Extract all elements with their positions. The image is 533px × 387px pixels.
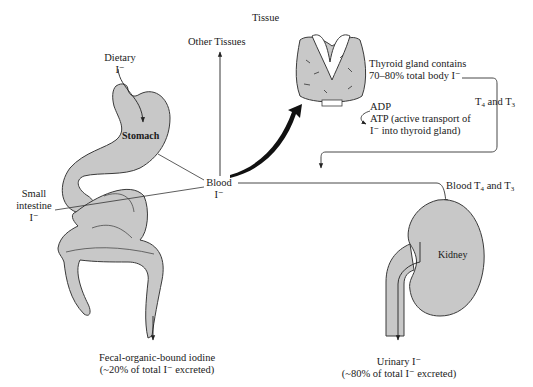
kidney-label: Kidney (438, 249, 467, 261)
intestine-shape (58, 189, 163, 338)
thick-arrow-to-thyroid (230, 104, 302, 178)
small-intestine-label: Small intestine I⁻ (10, 188, 58, 224)
blood-t4-t3-label: Blood T4 and T3 (446, 180, 514, 192)
t4-t3-label: T4 and T3 (475, 96, 515, 108)
adp-atp-label: ADP ATP (active transport of I⁻ into thy… (370, 101, 471, 137)
thyroid-gland-shape (296, 35, 365, 106)
urinary-excretion-label: Urinary I⁻ (~80% of total I⁻ excreted) (324, 356, 474, 380)
other-tissues-label: Other Tissues (188, 36, 245, 48)
tissue-label: Tissue (252, 12, 279, 24)
stomach-label: Stomach (122, 130, 159, 142)
blood-to-kidney-line (238, 183, 446, 204)
dietary-label: Dietary I⁻ (102, 52, 138, 76)
blood-iodide-label: Blood I⁻ (200, 177, 238, 201)
thyroid-label: Thyroid gland contains 70–80% total body… (369, 58, 466, 82)
fecal-excretion-label: Fecal-organic-bound iodine (~20% of tota… (82, 352, 232, 376)
